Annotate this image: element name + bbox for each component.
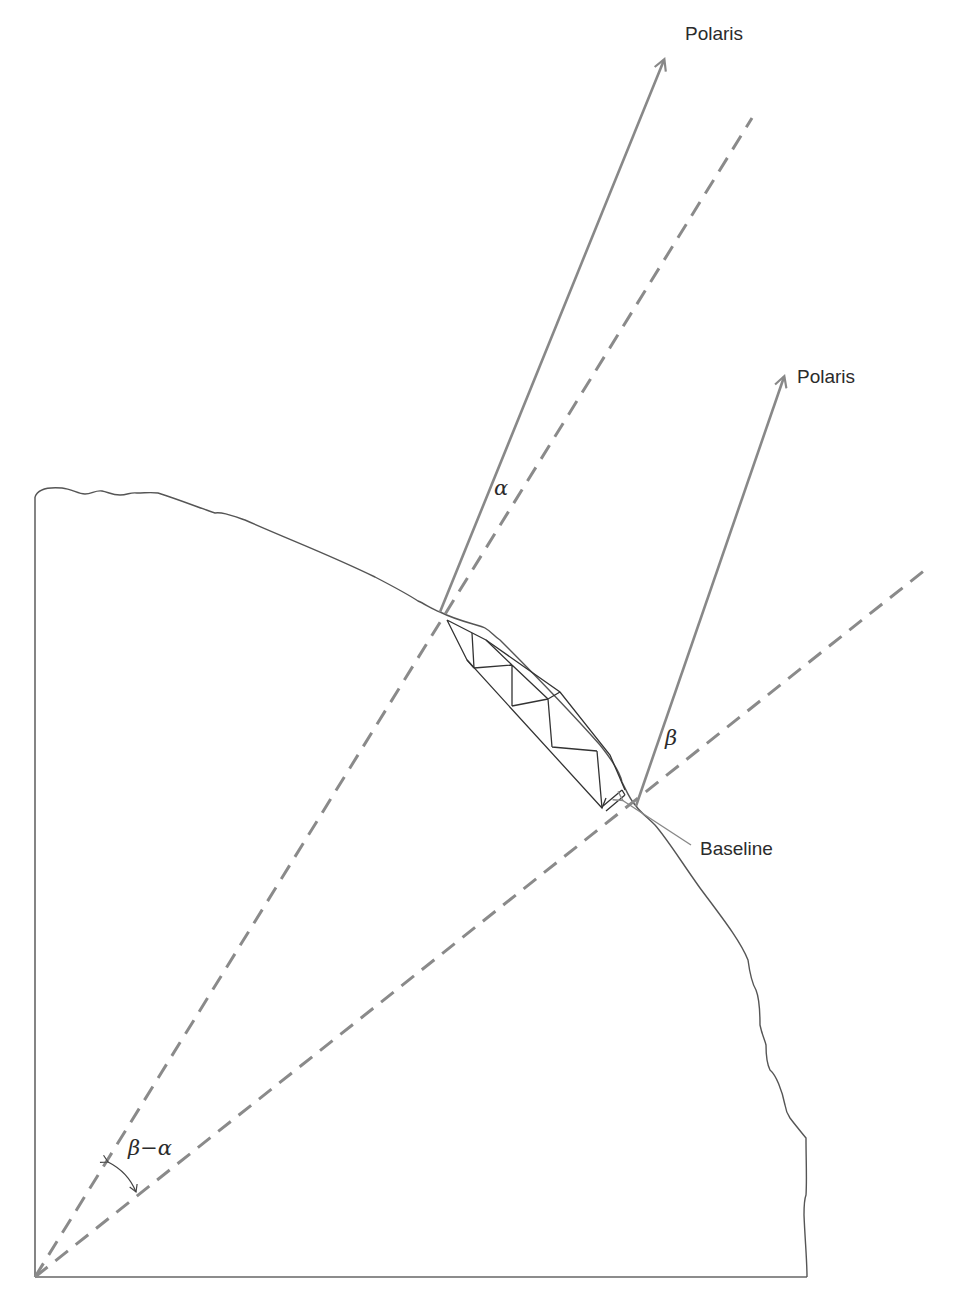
polaris-label-2: Polaris [797, 366, 855, 387]
baseline-pointer [622, 800, 691, 845]
chain-diagonals [467, 633, 602, 808]
radius-line-1 [35, 118, 752, 1277]
alpha-label: α [494, 476, 508, 500]
chain-outline [447, 620, 625, 808]
polaris-earth-radius-diagram: Polaris Polaris α β β−α Baseline [0, 0, 955, 1307]
baseline-label: Baseline [700, 838, 773, 859]
triangulation-chain [447, 620, 625, 811]
polaris-label-1: Polaris [685, 23, 743, 44]
polaris-rays [440, 60, 784, 806]
radius-line-2 [35, 570, 925, 1277]
polaris-ray-1 [440, 60, 664, 612]
central-angle-arc [108, 1162, 136, 1192]
beta-minus-alpha-label: β−α [127, 1136, 172, 1160]
beta-label: β [664, 726, 677, 750]
radius-lines [35, 118, 925, 1277]
